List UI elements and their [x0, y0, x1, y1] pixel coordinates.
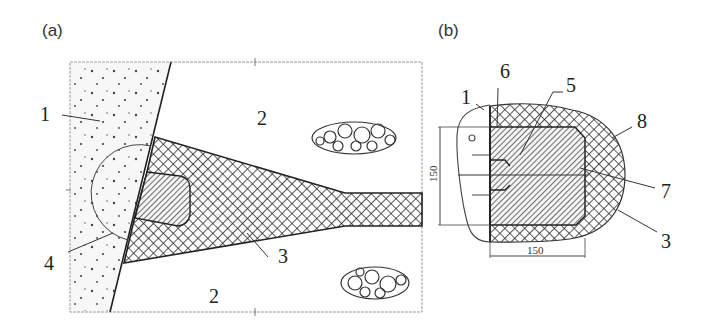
panel-a: (a): [40, 21, 422, 316]
callout-a-1: 1: [40, 103, 50, 125]
dimension-width-label: 150: [527, 244, 544, 256]
callout-a-3: 3: [278, 245, 288, 267]
panel-b-label: (b): [438, 21, 459, 40]
callout-b-3: 3: [661, 230, 671, 252]
callout-a-4: 4: [44, 252, 54, 274]
gravel-cluster-top: [312, 122, 396, 154]
callout-b-8: 8: [637, 110, 647, 132]
gravel-cluster-bottom: [341, 267, 409, 299]
leader-b-1: [476, 104, 484, 110]
dimension-height-label: 150: [427, 165, 439, 182]
callout-b-1: 1: [461, 86, 471, 108]
dimension-vertical: 150: [427, 127, 490, 225]
callout-b-6: 6: [500, 60, 510, 82]
leader-b-3: [618, 210, 657, 232]
outer-soil-outline: [457, 105, 490, 242]
callout-a-2-bottom: 2: [209, 285, 219, 307]
callout-a-2-top: 2: [257, 107, 267, 129]
aggregate-mark: [469, 135, 475, 141]
callout-b-7: 7: [661, 180, 671, 202]
hatched-block: [135, 172, 190, 226]
hatched-core: [490, 127, 585, 225]
panel-b: (b) 150 150: [427, 21, 671, 258]
figure-canvas: (a): [0, 0, 706, 325]
panel-a-label: (a): [42, 21, 63, 40]
callout-b-5: 5: [566, 74, 576, 96]
leader-b-8: [612, 127, 632, 138]
